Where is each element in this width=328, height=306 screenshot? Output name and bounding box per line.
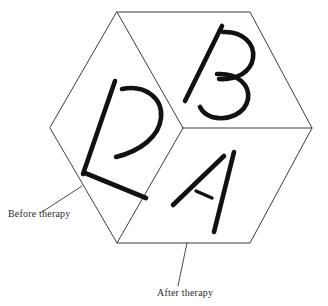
- annotation-after-therapy: After therapy: [157, 243, 213, 298]
- cube-figure-svg: Before therapy After therapy: [0, 0, 328, 306]
- annotation-before-therapy: Before therapy: [8, 186, 82, 219]
- after-therapy-leader-line: [178, 243, 187, 286]
- figure-container: Before therapy After therapy: [0, 0, 328, 306]
- after-therapy-label: After therapy: [157, 287, 213, 298]
- before-therapy-label: Before therapy: [8, 208, 71, 219]
